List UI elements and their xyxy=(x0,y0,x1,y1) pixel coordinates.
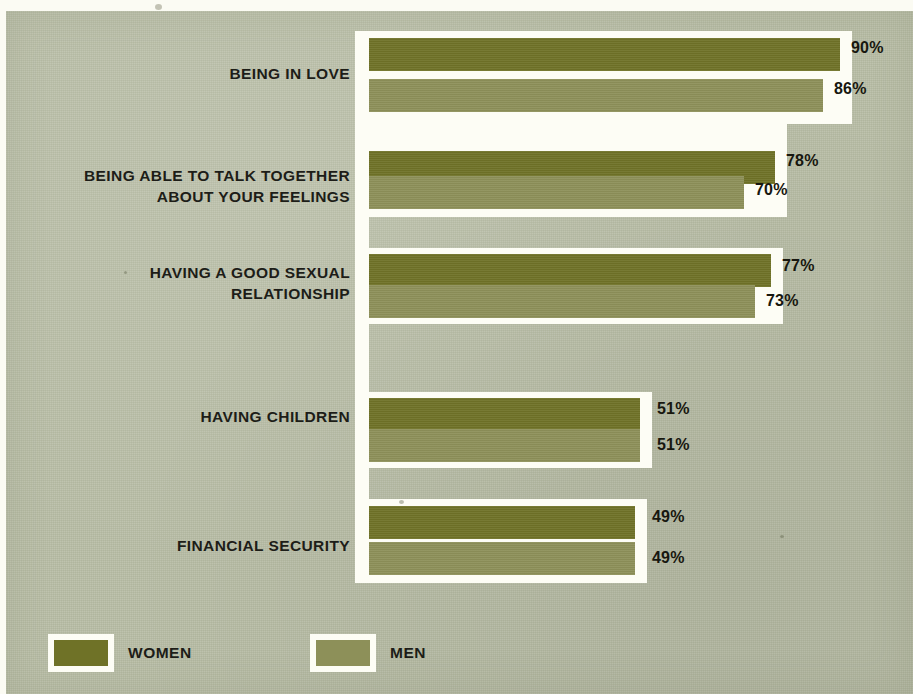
bar-texture xyxy=(369,285,755,318)
value-label-sexual-relationship-men: 73% xyxy=(766,292,799,310)
bar-chart-plot-area: BEING IN LOVE BEING ABLE TO TALK TOGETHE… xyxy=(0,0,913,694)
category-label-line: HAVING A GOOD SEXUAL xyxy=(20,262,350,283)
legend-swatch-men xyxy=(316,640,370,666)
legend-swatch-frame-men xyxy=(310,634,376,672)
scan-speck xyxy=(155,4,162,10)
bar-talk-together-men xyxy=(369,176,744,209)
category-label-having-children: HAVING CHILDREN xyxy=(60,406,350,427)
bar-texture xyxy=(369,79,823,112)
scan-speck xyxy=(399,500,404,504)
category-label-financial-security: FINANCIAL SECURITY xyxy=(60,535,350,556)
legend-swatch-women xyxy=(54,640,108,666)
category-label-sexual-relationship: HAVING A GOOD SEXUAL RELATIONSHIP xyxy=(20,262,350,304)
value-label-being-in-love-women: 90% xyxy=(851,39,884,57)
axis-spine xyxy=(355,31,369,583)
chart-legend: WOMEN MEN xyxy=(0,626,913,682)
legend-swatch-frame-women xyxy=(48,634,114,672)
bar-texture xyxy=(369,542,635,575)
value-label-talk-together-men: 70% xyxy=(755,181,788,199)
category-label-talk-together: BEING ABLE TO TALK TOGETHER ABOUT YOUR F… xyxy=(20,165,350,207)
value-label-having-children-men: 51% xyxy=(657,436,690,454)
value-label-financial-security-men: 49% xyxy=(652,549,685,567)
value-label-sexual-relationship-women: 77% xyxy=(782,257,815,275)
bar-texture xyxy=(369,176,744,209)
bar-financial-security-men xyxy=(369,542,635,575)
bar-sexual-relationship-women xyxy=(369,254,771,287)
bar-texture xyxy=(369,254,771,287)
category-label-line: FINANCIAL SECURITY xyxy=(60,535,350,556)
legend-label-women: WOMEN xyxy=(128,644,192,662)
category-label-line: HAVING CHILDREN xyxy=(60,406,350,427)
bar-financial-security-women xyxy=(369,506,635,539)
scan-speck xyxy=(780,535,784,538)
bar-sexual-relationship-men xyxy=(369,285,755,318)
value-label-being-in-love-men: 86% xyxy=(834,80,867,98)
bar-having-children-women xyxy=(369,398,640,431)
bar-having-children-men xyxy=(369,429,640,462)
bar-texture xyxy=(369,38,840,71)
bar-texture xyxy=(369,398,640,431)
scan-speck xyxy=(124,271,127,274)
bar-texture xyxy=(369,429,640,462)
category-label-being-in-love: BEING IN LOVE xyxy=(60,63,350,84)
category-label-line: BEING ABLE TO TALK TOGETHER xyxy=(20,165,350,186)
bar-texture xyxy=(369,506,635,539)
legend-item-women[interactable]: WOMEN xyxy=(48,634,192,672)
category-label-line: ABOUT YOUR FEELINGS xyxy=(20,186,350,207)
legend-item-men[interactable]: MEN xyxy=(310,634,426,672)
category-label-line: BEING IN LOVE xyxy=(60,63,350,84)
scan-frame: BEING IN LOVE BEING ABLE TO TALK TOGETHE… xyxy=(0,0,913,694)
bar-being-in-love-women xyxy=(369,38,840,71)
value-label-financial-security-women: 49% xyxy=(652,508,685,526)
value-label-having-children-women: 51% xyxy=(657,400,690,418)
bar-being-in-love-men xyxy=(369,79,823,112)
legend-label-men: MEN xyxy=(390,644,426,662)
value-label-talk-together-women: 78% xyxy=(786,152,819,170)
category-label-line: RELATIONSHIP xyxy=(20,283,350,304)
